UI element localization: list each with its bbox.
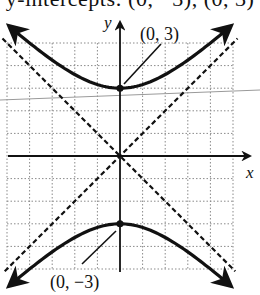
x-axis-label: x	[245, 163, 254, 182]
asymptote-y-equals-neg-x	[2, 38, 235, 271]
vertex-label-bottom: (0, −3)	[50, 272, 99, 293]
hyperbola-graph: x y (0, 3) (0, −3)	[0, 0, 260, 295]
vertex-point-bottom	[117, 220, 124, 227]
y-axis-label: y	[102, 13, 112, 32]
leader-line-bottom	[82, 231, 116, 264]
vertex-label-top: (0, 3)	[140, 24, 179, 45]
vertex-point-top	[117, 85, 124, 92]
scan-artifact-line	[0, 90, 260, 100]
asymptote-y-equals-x	[5, 38, 238, 271]
